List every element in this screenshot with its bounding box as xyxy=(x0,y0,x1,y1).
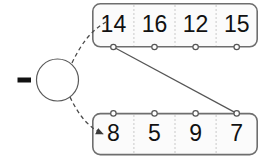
top-node-2[interactable] xyxy=(193,44,198,49)
top-array-cell-1: 16 xyxy=(142,11,168,37)
top-array-cell-3: 15 xyxy=(224,11,250,37)
bottom-array[interactable]: 8 5 9 7 xyxy=(93,114,257,155)
bottom-node-1[interactable] xyxy=(152,111,157,116)
top-node-3[interactable] xyxy=(234,44,239,49)
top-array[interactable]: 14 16 12 15 xyxy=(93,4,257,47)
bottom-array-cell-3: 7 xyxy=(230,120,243,146)
bottom-array-cell-2: 9 xyxy=(189,120,202,146)
top-array-cell-2: 12 xyxy=(183,11,209,37)
bottom-node-2[interactable] xyxy=(193,111,198,116)
bottom-node-3[interactable] xyxy=(234,111,239,116)
bottom-array-cell-1: 5 xyxy=(148,120,161,146)
operator-circle[interactable] xyxy=(37,59,79,101)
top-node-1[interactable] xyxy=(152,44,157,49)
bottom-node-0[interactable] xyxy=(111,111,116,116)
top-node-0[interactable] xyxy=(111,44,116,49)
diagram-canvas: 14 16 12 15 8 5 9 7 xyxy=(0,0,270,164)
top-array-cell-0: 14 xyxy=(101,11,127,37)
diagram-root: 14 16 12 15 8 5 9 7 xyxy=(0,0,270,164)
cross-link-line xyxy=(113,47,236,113)
bottom-array-cell-0: 8 xyxy=(107,120,120,146)
